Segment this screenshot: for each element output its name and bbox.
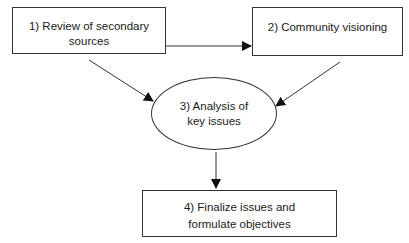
node-3-line-2: key issues [187,114,241,129]
node-community-visioning: 2) Community visioning [252,7,403,56]
node-review-secondary-sources: 1) Review of secondary sources [12,7,166,54]
node-2-line-1: 2) Community visioning [253,20,402,35]
node-4-line-2: formulate objectives [143,217,336,232]
node-analysis-key-issues: 3) Analysis of key issues [151,77,277,150]
node-4-line-1: 4) Finalize issues and [143,200,336,215]
node-3-line-1: 3) Analysis of [180,99,248,114]
node-1-line-1: 1) Review of secondary [13,19,165,34]
arrow-2-to-3 [276,62,340,106]
node-1-line-2: sources [13,34,165,49]
arrow-1-to-3 [89,60,153,101]
node-finalize-issues: 4) Finalize issues and formulate objecti… [142,190,337,237]
